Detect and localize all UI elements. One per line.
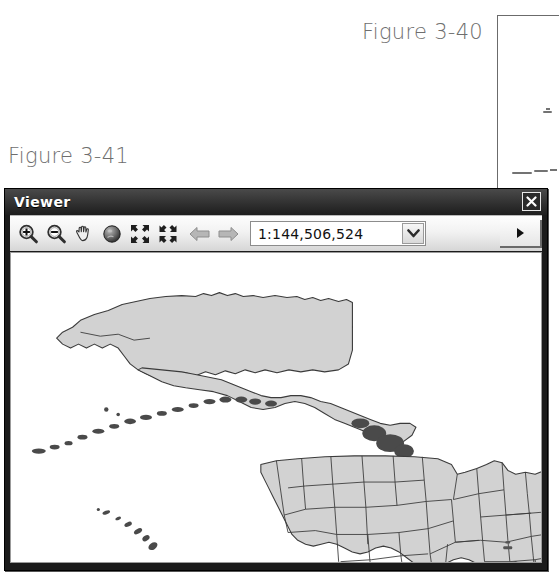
- window-titlebar[interactable]: Viewer: [5, 189, 547, 215]
- map-fragment: [512, 172, 532, 174]
- viewer-window: Viewer: [4, 188, 548, 571]
- map-fragment: [546, 108, 550, 110]
- map-fragment: [550, 169, 557, 171]
- globe-icon[interactable]: [98, 219, 126, 249]
- back-arrow-icon[interactable]: [186, 219, 214, 249]
- map-canvas[interactable]: [10, 252, 542, 563]
- map-fragment: [543, 111, 552, 113]
- figure-caption-3-41: Figure 3-41: [8, 144, 129, 168]
- scale-value: 1:144,506,524: [251, 226, 363, 242]
- zoom-to-fit-icon[interactable]: [126, 219, 154, 249]
- toolbar-overflow-button[interactable]: [500, 220, 542, 248]
- figure-3-40-partial-window: [497, 15, 559, 188]
- zoom-in-icon[interactable]: [14, 219, 42, 249]
- figure-caption-3-40: Figure 3-40: [362, 20, 483, 44]
- map-fragment: [534, 170, 548, 172]
- map-graphic: [11, 253, 541, 562]
- map-feature-conterminous-us: [261, 451, 541, 562]
- page-root: Figure 3-40 Figure 3-41 Viewer: [0, 0, 559, 579]
- toolbar-overflow-area: [500, 216, 542, 251]
- viewer-toolbar: 1:144,506,524: [10, 215, 542, 251]
- forward-arrow-icon[interactable]: [214, 219, 242, 249]
- pan-hand-icon[interactable]: [70, 219, 98, 249]
- chevron-down-icon[interactable]: [402, 223, 424, 244]
- window-title: Viewer: [14, 194, 71, 210]
- zoom-out-icon[interactable]: [42, 219, 70, 249]
- scale-combobox[interactable]: 1:144,506,524: [250, 221, 426, 246]
- map-feature-alaska: [32, 293, 416, 458]
- map-feature-hawaii: [97, 508, 159, 552]
- close-icon[interactable]: [522, 192, 541, 211]
- expand-view-icon[interactable]: [154, 219, 182, 249]
